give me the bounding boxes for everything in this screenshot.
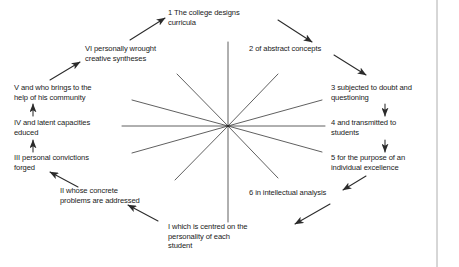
node-label-iii: III personal convictions forged: [14, 153, 132, 172]
spoke-s-nII: [175, 126, 228, 180]
spoke-s-nV: [132, 100, 228, 126]
node-label-3: 3 subjected to doubt and questioning: [331, 83, 441, 102]
arrow-a-V-VI: [50, 62, 80, 80]
node-label-vi: VI personally wrought creative syntheses: [85, 44, 203, 63]
spoke-s-n3: [228, 100, 322, 126]
node-label-iv: IV and latent capacities educed: [14, 118, 132, 137]
node-label-4: 4 and transmitted to students: [331, 118, 441, 137]
node-label-5: 5 for the purpose of an individual excel…: [331, 153, 441, 172]
arrow-a-I-II: [128, 205, 158, 221]
node-label-ii: II whose concrete problems are addressed: [60, 186, 178, 205]
spoke-s-n6: [228, 126, 278, 178]
spoke-s-n2: [228, 74, 278, 126]
node-label-i: I which is centred on the personality of…: [168, 222, 298, 251]
node-label-1: 1 The college designs curricula: [168, 8, 298, 27]
spoke-s-n5: [228, 126, 322, 152]
arrow-a-2-3: [334, 55, 366, 75]
diagram-canvas: 1 The college designs curricula2 of abst…: [0, 0, 459, 267]
node-label-v: V and who brings to the help of his comm…: [14, 83, 132, 102]
arrow-a-6-I: [295, 204, 330, 224]
arrow-a-VI-1: [130, 18, 165, 40]
node-label-6: 6 in intellectual analysis: [249, 188, 369, 198]
spoke-s-nIII: [132, 126, 228, 153]
node-label-2: 2 of abstract concepts: [249, 44, 369, 54]
arrow-a-II-III: [50, 172, 78, 187]
spoke-s-nVI: [177, 74, 228, 126]
